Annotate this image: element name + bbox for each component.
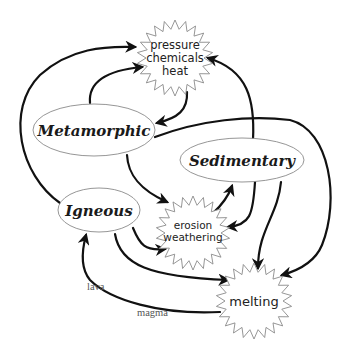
lava-label: lava bbox=[87, 281, 105, 292]
process-melting-node: melting bbox=[216, 263, 291, 339]
process-pressure-node: pressure chemicals heat bbox=[137, 20, 212, 96]
arrow-metamorphic-to-erosion bbox=[127, 155, 167, 202]
erosion-label: erosion bbox=[174, 219, 212, 231]
arrow-pressure-to-metamorphic bbox=[157, 92, 187, 123]
rock-sedimentary-node: Sedimentary bbox=[180, 138, 304, 182]
rock-metamorphic-node: Metamorphic bbox=[33, 104, 155, 156]
metamorphic-label: Metamorphic bbox=[37, 122, 151, 140]
pressure-label: pressure bbox=[150, 38, 200, 52]
arrow-erosion-to-sedimentary bbox=[213, 186, 232, 213]
rock-cycle-diagram: pressure chemicals heat erosion weatheri… bbox=[0, 0, 349, 359]
arrow-sedimentary-to-pressure bbox=[208, 58, 253, 140]
chemicals-label: chemicals bbox=[146, 51, 204, 65]
igneous-label: Igneous bbox=[64, 202, 133, 220]
arrow-metamorphic-to-pressure bbox=[90, 67, 142, 103]
melting-label: melting bbox=[229, 294, 278, 309]
heat-label: heat bbox=[162, 64, 188, 78]
rock-igneous-node: Igneous bbox=[58, 188, 140, 232]
weathering-label: weathering bbox=[163, 231, 222, 243]
arrow-sedimentary-to-melting bbox=[258, 182, 281, 268]
sedimentary-label: Sedimentary bbox=[189, 152, 296, 170]
magma-label: magma bbox=[137, 307, 168, 318]
